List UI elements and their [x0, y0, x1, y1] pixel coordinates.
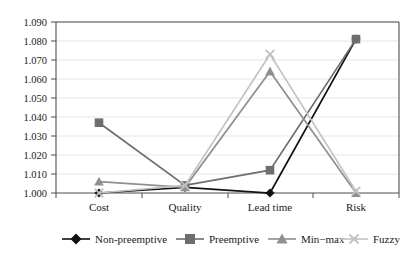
- ytick-label-1080: 1.080: [23, 36, 47, 47]
- ytick-label-1060: 1.060: [23, 74, 47, 85]
- gridlines: [56, 22, 399, 174]
- ytick-label-1020: 1.020: [23, 150, 47, 161]
- legend-label-non-preemptive: Non-preemptive: [95, 233, 167, 245]
- ytick-label-1030: 1.030: [23, 131, 47, 142]
- ytick-label-1040: 1.040: [23, 112, 47, 123]
- series-fuzzy: [95, 50, 361, 197]
- legend-label-preemptive: Preemptive: [209, 233, 259, 245]
- legend-item-preemptive[interactable]: Preemptive: [176, 233, 259, 245]
- square-icon: [185, 234, 195, 244]
- series-line: [99, 54, 356, 193]
- legend-label-min-max: Min−max: [301, 233, 345, 245]
- ytick-label-1010: 1.010: [23, 169, 47, 180]
- series-line: [99, 39, 356, 185]
- legend-item-fuzzy[interactable]: Fuzzy: [340, 233, 400, 245]
- series-non-preemptive: [94, 35, 360, 198]
- xtick-label-risk: Risk: [346, 201, 367, 213]
- marker-square: [352, 35, 361, 44]
- legend-item-min-max[interactable]: Min−max: [268, 233, 345, 245]
- legend: Non-preemptive Preemptive Min−max Fuzzy: [62, 233, 400, 245]
- marker-square: [266, 166, 275, 175]
- xtick-label-lead-time: Lead time: [248, 201, 292, 213]
- legend-label-fuzzy: Fuzzy: [373, 233, 400, 245]
- series-line: [99, 71, 356, 193]
- ytick-label-1000: 1.000: [23, 188, 47, 199]
- series-preemptive: [95, 35, 361, 190]
- xtick-label-cost: Cost: [89, 201, 109, 213]
- ytick-label-1050: 1.050: [23, 93, 47, 104]
- xtick-label-quality: Quality: [169, 201, 202, 213]
- axis-frame: [56, 22, 399, 193]
- series-layer: [94, 35, 361, 198]
- x-tick-marks: [56, 193, 399, 198]
- ytick-label-1090: 1.090: [23, 17, 47, 28]
- diamond-icon: [71, 234, 82, 245]
- marker-triangle: [265, 67, 275, 76]
- chart-container: 1.090 1.080 1.070 1.060 1.050 1.040 1.03…: [0, 0, 419, 261]
- series-line: [99, 39, 356, 193]
- ytick-label-1070: 1.070: [23, 55, 47, 66]
- marker-diamond: [265, 188, 274, 197]
- y-tick-marks: [51, 22, 56, 193]
- marker-square: [95, 118, 104, 127]
- line-chart: 1.090 1.080 1.070 1.060 1.050 1.040 1.03…: [0, 0, 419, 261]
- marker-cross: [266, 50, 275, 59]
- legend-item-non-preemptive[interactable]: Non-preemptive: [62, 233, 167, 245]
